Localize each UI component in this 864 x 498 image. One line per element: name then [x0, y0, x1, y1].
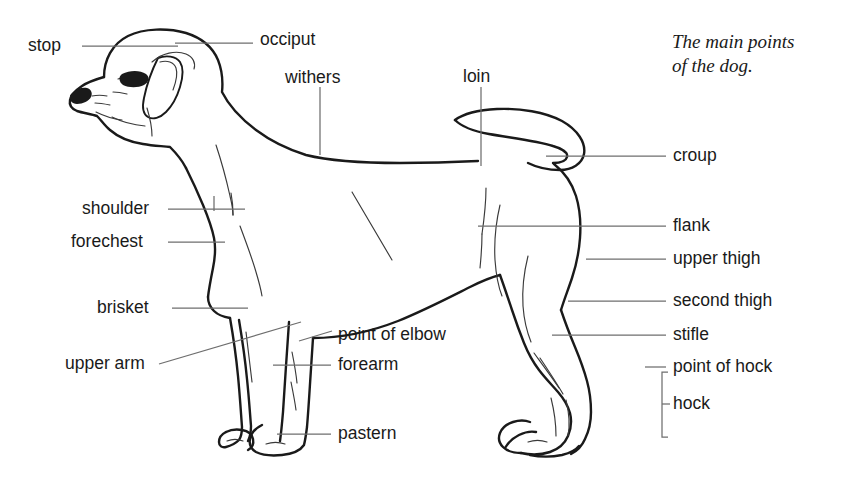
upper-arm-line [240, 226, 262, 296]
label-second-thigh: second thigh [673, 292, 772, 310]
front-paw-detail [266, 443, 285, 445]
ribcage-line [352, 192, 392, 260]
leader-point-of-elbow [299, 331, 332, 341]
neck-front-to-chest [186, 168, 215, 297]
upper-thigh-line [495, 205, 502, 296]
ear-fold [160, 61, 177, 90]
label-forearm: forearm [338, 356, 398, 374]
ear-crease-top [152, 52, 195, 69]
label-occiput: occiput [260, 31, 315, 49]
muzzle-detail-3 [113, 92, 127, 94]
croup-to-rear [554, 164, 580, 310]
front-leg-near-front [280, 322, 289, 441]
front-leg-far [219, 318, 242, 447]
label-point-of-hock: point of hock [673, 358, 772, 376]
label-pastern: pastern [338, 425, 396, 443]
dog-outline [70, 30, 591, 457]
front-paw-far-detail [227, 440, 243, 442]
label-shoulder: shoulder [82, 200, 149, 218]
label-upper-arm: upper arm [65, 355, 145, 373]
head-and-topline [104, 30, 478, 163]
label-flank: flank [673, 217, 710, 235]
nose-icon [70, 88, 92, 104]
eye-icon [119, 71, 148, 87]
label-croup: croup [673, 147, 717, 165]
label-withers: withers [285, 69, 340, 87]
label-stifle: stifle [673, 326, 709, 344]
dog-anatomy-diagram: stop occiput withers loin croup shoulder… [0, 0, 864, 498]
second-thigh-line [523, 256, 531, 342]
hock-inner [551, 398, 556, 436]
rear-paw-toe [505, 432, 536, 448]
hind-leg-back [561, 310, 591, 454]
muzzle-detail-2 [95, 103, 110, 105]
leader-lines [82, 43, 670, 437]
cheek-line [147, 108, 152, 136]
leader-upper-arm [159, 322, 301, 364]
forearm-crease-1 [292, 352, 297, 383]
forearm-crease-2 [291, 382, 296, 410]
label-loin: loin [463, 68, 490, 86]
label-forechest: forechest [71, 233, 143, 251]
label-upper-thigh: upper thigh [673, 250, 761, 268]
label-stop: stop [28, 37, 61, 55]
hind-leg-front [500, 275, 571, 454]
label-point-of-elbow: point of elbow [338, 326, 446, 344]
loin-line [482, 188, 486, 234]
figure-caption: The main points of the dog. [672, 30, 794, 79]
muzzle-detail-1 [92, 95, 107, 96]
jaw-line [112, 117, 145, 126]
dog-interior-detail [92, 52, 569, 444]
ear-outline [143, 56, 183, 118]
label-hock: hock [673, 395, 710, 413]
shoulder-blade [216, 145, 233, 215]
flank-line [480, 234, 482, 268]
rear-paw-detail [528, 441, 547, 443]
label-brisket: brisket [97, 299, 149, 317]
hock-tendon-1 [534, 353, 559, 388]
